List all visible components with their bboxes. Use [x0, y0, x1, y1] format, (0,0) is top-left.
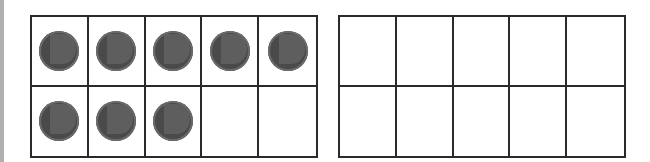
ten-frame-cell: [146, 87, 203, 157]
ten-frame-cell: [567, 17, 624, 87]
ten-frame-cell: [340, 17, 397, 87]
ten-frame-cell: [454, 17, 511, 87]
counter-dot-icon: [39, 101, 79, 141]
ten-frame-cell: [89, 87, 146, 157]
ten-frame-cell: [340, 87, 397, 157]
ten-frame-cell: [32, 17, 89, 87]
ten-frame-cell: [202, 87, 259, 157]
ten-frame-cell: [567, 87, 624, 157]
counter-dot-icon: [210, 31, 250, 71]
counter-dot-icon: [39, 31, 79, 71]
ten-frame-cell: [32, 87, 89, 157]
counter-dot-icon: [96, 101, 136, 141]
ten-frame-cell: [510, 17, 567, 87]
ten-frame-cell: [259, 17, 316, 87]
ten-frame-left: [30, 15, 318, 158]
ten-frame-cell: [510, 87, 567, 157]
counter-dot-icon: [96, 31, 136, 71]
ten-frame-right: [338, 15, 626, 158]
counter-dot-icon: [268, 31, 308, 71]
ten-frame-cell: [259, 87, 316, 157]
counter-dot-icon: [153, 31, 193, 71]
ten-frame-cell: [202, 17, 259, 87]
counter-dot-icon: [153, 101, 193, 141]
ten-frame-cell: [397, 17, 454, 87]
ten-frame-cell: [146, 17, 203, 87]
ten-frame-cell: [397, 87, 454, 157]
ten-frame-cell: [89, 17, 146, 87]
left-edge-strip: [0, 0, 4, 162]
ten-frame-cell: [454, 87, 511, 157]
